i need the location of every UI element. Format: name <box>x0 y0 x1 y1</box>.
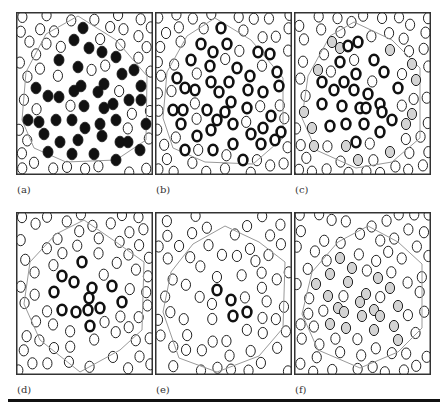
open-circle <box>258 312 267 323</box>
filled-circle <box>79 100 89 112</box>
thick-ring <box>275 81 284 91</box>
open-circle <box>115 85 124 96</box>
open-circle <box>28 358 37 369</box>
open-circle <box>265 230 274 241</box>
gray-circle <box>385 146 394 157</box>
open-circle <box>49 163 58 174</box>
thick-ring <box>173 73 182 83</box>
open-circle <box>421 27 430 38</box>
open-circle <box>134 31 143 42</box>
open-circle <box>202 222 211 233</box>
open-circle <box>100 316 109 327</box>
open-circle <box>280 113 289 124</box>
open-circle <box>125 227 134 238</box>
open-circle <box>315 209 324 220</box>
open-circle <box>124 363 133 374</box>
open-circle <box>75 226 84 237</box>
open-circle <box>14 124 23 135</box>
open-circle <box>81 163 90 174</box>
open-circle <box>111 327 120 338</box>
open-circle <box>354 249 363 260</box>
open-circle <box>322 255 331 266</box>
thick-ring <box>318 99 327 109</box>
filled-circle <box>34 116 44 128</box>
thick-ring <box>342 119 351 129</box>
open-circle <box>108 351 117 362</box>
open-circle <box>153 124 162 135</box>
gray-circle <box>375 310 384 321</box>
open-circle <box>382 215 391 226</box>
filled-circle <box>111 114 121 126</box>
thick-ring <box>246 71 255 81</box>
gray-circle <box>369 324 378 335</box>
gray-circle <box>341 140 350 151</box>
open-circle <box>397 253 406 264</box>
open-circle <box>62 161 71 172</box>
panel-label-d: (d) <box>17 384 31 395</box>
thick-ring <box>207 125 216 135</box>
open-circle <box>162 216 171 227</box>
open-circle <box>94 233 103 244</box>
open-circle <box>276 219 285 230</box>
thick-ring <box>344 41 353 51</box>
open-circle <box>169 166 178 177</box>
open-circle <box>139 224 148 235</box>
open-circle <box>29 157 38 168</box>
open-circle <box>195 291 204 302</box>
open-circle <box>112 257 121 268</box>
open-circle <box>423 117 432 128</box>
thick-ring <box>181 83 190 93</box>
thick-ring <box>352 69 361 79</box>
open-circle <box>291 123 300 134</box>
filled-circle <box>97 130 107 142</box>
filled-circle <box>93 86 103 98</box>
open-circle <box>106 218 115 229</box>
gray-circle <box>385 44 394 55</box>
thick-ring <box>336 57 345 67</box>
thick-ring <box>191 85 200 95</box>
open-circle <box>208 336 217 347</box>
open-circle <box>323 141 332 152</box>
open-circle <box>410 209 419 220</box>
open-circle <box>397 68 406 79</box>
open-circle <box>19 345 28 356</box>
open-circle <box>181 279 190 290</box>
open-circle <box>320 235 329 246</box>
open-circle <box>264 249 273 260</box>
open-circle <box>131 264 140 275</box>
thick-ring <box>227 295 236 305</box>
open-circle <box>403 310 412 321</box>
open-circle <box>119 24 128 35</box>
open-circle <box>264 13 273 24</box>
open-circle <box>199 23 208 34</box>
gray-circle <box>343 276 352 287</box>
gray-circle <box>407 108 416 119</box>
thick-ring <box>209 47 218 57</box>
open-circle <box>387 267 396 278</box>
open-circle <box>208 313 217 324</box>
panel-f <box>294 212 431 375</box>
open-circle <box>298 56 307 67</box>
open-circle <box>310 246 319 257</box>
filled-circle <box>69 85 79 97</box>
open-circle <box>30 267 39 278</box>
open-circle <box>271 31 280 42</box>
open-circle <box>171 132 180 143</box>
open-circle <box>142 163 151 174</box>
open-circle <box>339 291 348 302</box>
open-circle <box>42 306 51 317</box>
thick-ring <box>197 39 206 49</box>
open-circle <box>48 319 57 330</box>
open-circle <box>162 153 171 164</box>
gray-circle <box>385 282 394 293</box>
open-circle <box>174 22 183 33</box>
thick-ring <box>254 47 263 57</box>
filled-circle <box>95 118 105 130</box>
thick-ring <box>266 49 275 59</box>
open-circle <box>49 260 58 271</box>
open-circle <box>350 54 359 65</box>
open-circle <box>242 220 251 231</box>
thick-ring <box>271 135 280 145</box>
open-circle <box>183 330 192 341</box>
open-circle <box>303 263 312 274</box>
